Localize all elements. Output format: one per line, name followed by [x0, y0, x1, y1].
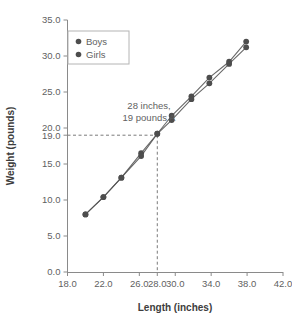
- legend-marker-boys: [76, 39, 82, 45]
- x-tick-label: 34.0: [202, 278, 221, 289]
- data-point-girls: [243, 44, 249, 50]
- y-tick-label: 0.0: [47, 266, 60, 277]
- data-point-boys: [243, 39, 249, 45]
- x-axis-title: Length (inches): [138, 302, 212, 313]
- x-axis-ticks: 18.022.026.028.030.034.038.042.0: [58, 272, 292, 289]
- legend-marker-girls: [76, 52, 82, 58]
- data-point-boys: [206, 75, 212, 81]
- annotation-line-2: 19 pounds A: [123, 112, 176, 123]
- legend-label-boys: Boys: [86, 36, 107, 47]
- x-tick-label: 38.0: [238, 278, 257, 289]
- data-point-girls: [189, 96, 195, 102]
- annotation-line-1: 28 inches,: [127, 100, 170, 111]
- y-tick-label: 35.0: [42, 14, 61, 25]
- y-tick-label: 20.0: [42, 122, 61, 133]
- y-axis-title: Weight (pounds): [5, 107, 16, 186]
- x-tick-label: 18.0: [58, 278, 77, 289]
- legend-label-girls: Girls: [86, 49, 106, 60]
- y-tick-label: 10.0: [42, 194, 61, 205]
- x-tick-label: 22.0: [94, 278, 113, 289]
- data-series-layer: [83, 39, 250, 218]
- y-axis-ticks: 0.05.010.015.019.020.025.030.035.0: [42, 14, 68, 277]
- x-tick-label: 26.0: [130, 278, 149, 289]
- data-point-girls: [206, 80, 212, 86]
- x-tick-label: 30.0: [166, 278, 185, 289]
- y-tick-label: 15.0: [42, 158, 61, 169]
- chart-legend: Boys Girls: [68, 31, 129, 64]
- data-point-girls: [101, 194, 107, 200]
- chart-container: 0.05.010.015.019.020.025.030.035.0 18.02…: [0, 0, 292, 323]
- data-point-girls: [118, 175, 124, 181]
- data-point-girls: [138, 153, 144, 159]
- data-point-girls: [83, 212, 89, 218]
- data-point-girls: [226, 61, 232, 67]
- y-tick-label: 30.0: [42, 50, 61, 61]
- x-tick-label: 28.0: [148, 278, 167, 289]
- line-chart: 0.05.010.015.019.020.025.030.035.0 18.02…: [0, 0, 292, 323]
- data-point-girls: [154, 131, 160, 137]
- series-line-girls: [85, 47, 246, 214]
- x-tick-label: 42.0: [274, 278, 292, 289]
- series-line-boys: [85, 42, 246, 215]
- y-tick-label: 25.0: [42, 86, 61, 97]
- y-tick-label: 5.0: [47, 230, 60, 241]
